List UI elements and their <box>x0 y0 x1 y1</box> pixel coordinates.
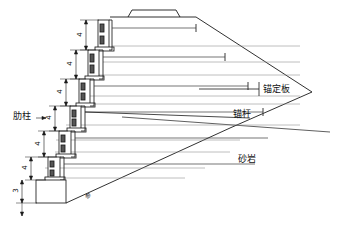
dim-value-tier-1: 4 <box>77 32 84 36</box>
dim-value-tier-4: 4 <box>46 115 53 119</box>
dim-value-tier-6: 4 <box>22 165 29 169</box>
rib-column-tier-6 <box>45 157 65 181</box>
dim-value-tier-3: 4 <box>57 89 64 93</box>
rib-column-tier-4 <box>67 106 86 132</box>
diagram-canvas: 肋柱 锚定板 锚杆 砂岩 参 4 4 4 4 4 4 3 <box>0 0 337 229</box>
rib-column-stack <box>36 20 114 203</box>
label-anchor-plate: 锚定板 <box>263 85 290 94</box>
rib-column-tier-2 <box>85 50 104 80</box>
toe-slope-line <box>66 128 230 203</box>
label-sandstone: 砂岩 <box>238 155 256 164</box>
label-anchor-rod: 锚杆 <box>233 110 251 119</box>
anchor-rod-leader <box>85 112 250 118</box>
slope-face-line <box>196 17 312 92</box>
rib-column-tier-1 <box>95 20 114 51</box>
label-rib-column: 肋柱 <box>13 112 31 121</box>
foundation-footing <box>36 180 66 203</box>
parapet-block <box>128 10 180 17</box>
rib-column-tier-5 <box>56 131 76 158</box>
anchor-rod-group <box>64 24 268 164</box>
rib-column-tier-3 <box>76 79 95 107</box>
dim-value-tier-5: 4 <box>35 141 42 145</box>
dim-value-tier-2: 4 <box>67 61 74 65</box>
dim-value-footing: 3 <box>13 188 20 192</box>
